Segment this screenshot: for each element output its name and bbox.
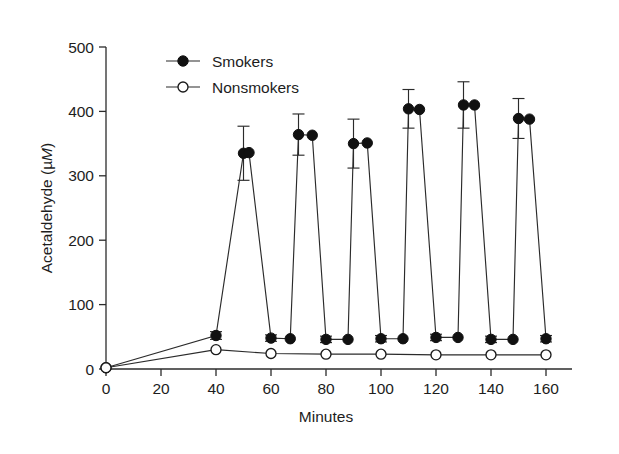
y-tick-label-100: 100 bbox=[68, 296, 94, 313]
acetaldehyde-line-chart: 0100200300400500 020406080100120140160 S… bbox=[26, 27, 592, 427]
legend-label-nonsmokers: Nonsmokers bbox=[212, 79, 299, 96]
legend-marker-smokers bbox=[178, 56, 188, 66]
x-tick-label-0: 0 bbox=[102, 380, 111, 397]
data-point-smokers bbox=[362, 138, 372, 148]
y-axis-title-close: ) bbox=[38, 143, 55, 148]
data-point-nonsmokers bbox=[431, 350, 441, 360]
data-point-nonsmokers bbox=[211, 345, 221, 355]
x-tick-label-20: 20 bbox=[152, 380, 170, 397]
data-point-nonsmokers bbox=[266, 349, 276, 359]
data-point-smokers bbox=[307, 130, 317, 140]
data-point-smokers bbox=[321, 334, 331, 344]
x-axis-title: Minutes bbox=[299, 408, 354, 425]
data-point-smokers bbox=[403, 104, 413, 114]
data-point-nonsmokers bbox=[321, 349, 331, 359]
series-line-smokers bbox=[106, 105, 546, 368]
x-tick-label-140: 140 bbox=[478, 380, 504, 397]
series-smokers bbox=[101, 82, 552, 373]
data-point-smokers bbox=[524, 114, 534, 124]
data-point-smokers bbox=[431, 332, 441, 342]
y-axis-title-unit: M bbox=[38, 148, 55, 161]
data-point-smokers bbox=[343, 334, 353, 344]
data-point-smokers bbox=[348, 138, 358, 148]
data-point-smokers bbox=[211, 330, 221, 340]
y-tick-label-500: 500 bbox=[68, 39, 94, 56]
data-point-nonsmokers bbox=[376, 349, 386, 359]
data-point-smokers bbox=[244, 147, 254, 157]
y-axis-title: Acetaldehyde (µM) bbox=[38, 143, 55, 273]
y-tick-label-200: 200 bbox=[68, 232, 94, 249]
data-point-smokers bbox=[508, 334, 518, 344]
y-tick-label-300: 300 bbox=[68, 167, 94, 184]
data-point-smokers bbox=[469, 100, 479, 110]
legend-marker-nonsmokers bbox=[178, 82, 188, 92]
data-point-nonsmokers bbox=[101, 363, 111, 373]
y-axis-title-text: Acetaldehyde (µ bbox=[38, 161, 55, 273]
x-tick-label-80: 80 bbox=[317, 380, 335, 397]
axis-titles: MinutesAcetaldehyde (µM) bbox=[38, 143, 353, 425]
data-point-smokers bbox=[453, 332, 463, 342]
y-tick-label-0: 0 bbox=[85, 361, 94, 378]
figure-frame: 0100200300400500 020406080100120140160 S… bbox=[26, 27, 592, 427]
x-tick-label-100: 100 bbox=[368, 380, 394, 397]
x-axis: 020406080100120140160 bbox=[102, 369, 572, 397]
data-point-smokers bbox=[414, 104, 424, 114]
x-tick-label-120: 120 bbox=[423, 380, 449, 397]
data-point-smokers bbox=[541, 334, 551, 344]
x-tick-label-40: 40 bbox=[207, 380, 225, 397]
data-point-smokers bbox=[376, 334, 386, 344]
data-point-smokers bbox=[398, 334, 408, 344]
data-point-nonsmokers bbox=[541, 350, 551, 360]
chart-legend: SmokersNonsmokers bbox=[166, 53, 299, 96]
legend-label-smokers: Smokers bbox=[212, 53, 273, 70]
x-tick-label-60: 60 bbox=[262, 380, 280, 397]
data-point-smokers bbox=[458, 100, 468, 110]
y-tick-label-400: 400 bbox=[68, 103, 94, 120]
data-point-smokers bbox=[513, 113, 523, 123]
data-point-smokers bbox=[266, 333, 276, 343]
y-axis: 0100200300400500 bbox=[68, 39, 106, 378]
data-point-smokers bbox=[486, 334, 496, 344]
data-point-smokers bbox=[293, 129, 303, 139]
data-point-nonsmokers bbox=[486, 350, 496, 360]
data-point-smokers bbox=[285, 334, 295, 344]
x-tick-label-160: 160 bbox=[533, 380, 559, 397]
data-series-group bbox=[101, 82, 552, 373]
